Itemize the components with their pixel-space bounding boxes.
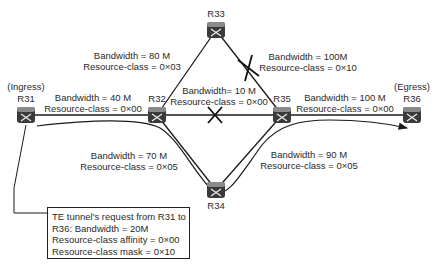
bandwidth-text: Bandwidth = 70 M: [79, 150, 179, 161]
router-label-r31: R31: [6, 93, 46, 104]
excluded-mark-r33-r35: [238, 55, 259, 81]
router-label-r36: R36: [392, 93, 432, 104]
resource-class-text: Resource-class = 0×00: [295, 103, 395, 114]
bandwidth-text: Bandwidth = 40 M: [43, 92, 143, 103]
request-affinity: Resource-class affinity = 0×00: [52, 234, 185, 246]
bandwidth-text: Bandwidth = 100M: [258, 51, 358, 62]
router-icon: [273, 107, 291, 123]
router-icon: [207, 22, 225, 38]
router-role-r31: (Ingress): [6, 81, 46, 92]
bandwidth-text: Bandwidth = 100 M: [295, 92, 395, 103]
router-label-r34: R34: [196, 200, 236, 211]
router-icon: [17, 107, 35, 123]
router-role-r36: (Egress): [392, 81, 432, 92]
router-icon: [403, 107, 421, 123]
link-label-r32-r33: Bandwidth = 80 M Resource-class = 0×03: [82, 50, 182, 72]
router-icon: [148, 107, 166, 123]
bandwidth-text: Bandwidth = 90 M: [259, 149, 359, 160]
resource-class-text: Resource-class = 0×00: [43, 103, 143, 114]
resource-class-text: Resource-class = 0×05: [259, 160, 359, 171]
link-label-r33-r35: Bandwidth = 100M Resource-class = 0×10: [258, 51, 358, 73]
link-label-r32-r34: Bandwidth = 70 M Resource-class = 0×05: [79, 150, 179, 172]
link-label-r35-r36: Bandwidth = 100 M Resource-class = 0×00: [295, 92, 395, 114]
bandwidth-text: Bandwidth = 80 M: [82, 50, 182, 61]
tunnel-request-callout: TE tunnel's request from R31 to R36: Ban…: [47, 207, 190, 259]
link-label-r34-r35: Bandwidth = 90 M Resource-class = 0×05: [259, 149, 359, 171]
link-label-r31-r32: Bandwidth = 40 M Resource-class = 0×00: [43, 92, 143, 114]
request-line: TE tunnel's request from R31 to: [52, 211, 185, 223]
resource-class-text: Resource-class = 0×05: [79, 161, 179, 172]
resource-class-text: Resource-class = 0×00: [169, 96, 269, 107]
request-bandwidth: R36: Bandwidth = 20M: [52, 223, 185, 235]
link-label-r32-r35: Bandwidth= 10 M Resource-class = 0×00: [169, 85, 269, 107]
router-icon: [207, 182, 225, 198]
request-mask: Resource-class mask = 0×10: [52, 246, 185, 258]
bandwidth-text: Bandwidth= 10 M: [169, 85, 269, 96]
router-label-r33: R33: [196, 8, 236, 19]
resource-class-text: Resource-class = 0×10: [258, 62, 358, 73]
resource-class-text: Resource-class = 0×03: [82, 61, 182, 72]
callout-connector: [14, 125, 47, 213]
